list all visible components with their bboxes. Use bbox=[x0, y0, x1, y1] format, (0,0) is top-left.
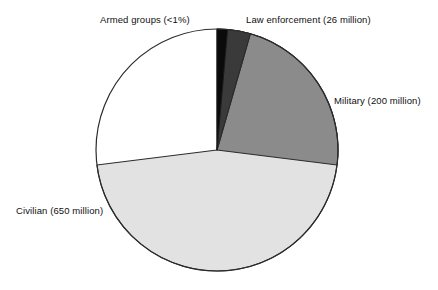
pie-label-civilian: Civilian (650 million) bbox=[16, 205, 103, 216]
pie-label-military: Military (200 million) bbox=[334, 95, 421, 106]
pie-chart: Armed groups (<1%) Law enforcement (26 m… bbox=[0, 0, 438, 290]
pie-chart-graphic bbox=[0, 0, 438, 290]
pie-label-armed-groups: Armed groups (<1%) bbox=[100, 14, 190, 25]
pie-label-law-enforcement: Law enforcement (26 million) bbox=[246, 14, 371, 25]
